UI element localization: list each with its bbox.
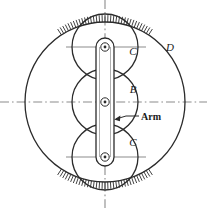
hatch-tick (93, 16, 94, 23)
hatch-tick (96, 15, 97, 22)
label-gear-bottom: C (129, 136, 137, 148)
pivot-bottom (101, 153, 109, 161)
label-arm: Arm (141, 111, 162, 122)
gear-diagram-canvas: C D B C Arm (0, 0, 207, 208)
hatch-tick (144, 172, 147, 178)
hatch-tick (63, 26, 66, 32)
hatch-tick (73, 21, 76, 28)
hatch-tick (60, 171, 64, 177)
hatch-tick (142, 25, 145, 31)
gear-diagram-figure: C D B C Arm (0, 0, 207, 208)
hatch-tick (58, 169, 62, 175)
hatch-tick (116, 181, 117, 188)
hatch-tick (146, 171, 150, 177)
hatch-tick (76, 177, 78, 184)
hatch-tick (71, 175, 74, 181)
hatch-tick (65, 173, 68, 179)
hatch-tick (73, 177, 76, 184)
hatch-tick (60, 27, 64, 33)
hatch-tick (142, 173, 145, 179)
label-ring-gear: D (165, 41, 174, 53)
hatch-tick (68, 23, 71, 29)
hatch-tick (132, 20, 134, 27)
hatch-tick (116, 16, 117, 23)
hatch-tick (139, 174, 142, 180)
hatch-tick (139, 23, 142, 29)
hatch-tick (113, 15, 114, 22)
hatch-tick (76, 20, 78, 27)
hatch-tick (137, 175, 140, 181)
hatch-tick (113, 182, 114, 189)
hatch-tick (149, 29, 153, 35)
hatch-tick (149, 169, 153, 175)
hatch-tick (63, 172, 66, 178)
hatch-tick (146, 27, 150, 33)
label-gear-middle: B (130, 83, 137, 95)
hatch-tick (68, 174, 71, 180)
pivot-top (101, 43, 109, 51)
hatch-tick (134, 177, 137, 184)
hatch-tick (65, 25, 68, 31)
hatch-tick (58, 29, 62, 35)
pivot-middle (101, 98, 109, 106)
hatch-tick (134, 21, 137, 28)
label-gear-top: C (129, 45, 137, 57)
hatch-tick (144, 26, 147, 32)
arm-leader-line (114, 116, 139, 122)
hatch-tick (71, 22, 74, 28)
hatch-tick (96, 182, 97, 189)
hatch-tick (137, 22, 140, 28)
arrowhead-icon (114, 116, 120, 122)
hatch-tick (93, 181, 94, 188)
hatch-tick (132, 177, 134, 184)
